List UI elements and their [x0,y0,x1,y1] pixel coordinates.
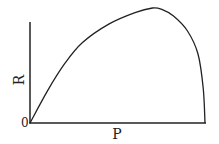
y-axis-label: R [11,74,27,85]
curve-line [30,8,205,123]
diagram: R 0 P [0,0,219,144]
x-axis-label: P [112,126,121,142]
origin-label: 0 [21,116,29,130]
